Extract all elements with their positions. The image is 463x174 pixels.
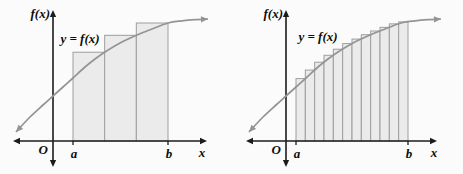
riemann-rectangle (333, 49, 342, 141)
y-axis-label: f(x) (264, 6, 284, 21)
x-axis-left-arrow (246, 138, 253, 144)
y-axis-bottom-arrow (50, 160, 56, 167)
riemann-rectangle (305, 70, 314, 141)
y-axis-label: f(x) (31, 6, 51, 21)
curve-equation-label: y = f(x) (58, 31, 99, 46)
panel-coarse-partition: f(x)y = f(x)Oabx (0, 0, 231, 174)
x-axis-label: x (430, 145, 438, 160)
x-axis-right-arrow (200, 138, 207, 144)
riemann-rectangle (296, 79, 305, 141)
riemann-rectangle (105, 35, 137, 141)
riemann-rectangle (361, 35, 370, 141)
a-label: a (294, 146, 301, 161)
b-label: b (166, 146, 173, 161)
y-axis-bottom-arrow (283, 160, 289, 167)
riemann-rectangle (73, 52, 105, 141)
curve-end-arrow (434, 16, 441, 22)
panel-fine-partition: f(x)y = f(x)Oabx (231, 0, 463, 174)
riemann-rectangle (315, 62, 324, 141)
riemann-rectangle (399, 22, 408, 141)
y-axis-top-arrow (50, 10, 56, 17)
riemann-rectangle (136, 23, 168, 141)
riemann-rectangle (389, 24, 398, 141)
riemann-rectangle (371, 31, 380, 141)
a-label: a (71, 146, 78, 161)
riemann-rectangle (380, 27, 389, 141)
riemann-rectangle (352, 39, 361, 141)
riemann-rectangle (324, 55, 333, 141)
y-axis-top-arrow (283, 10, 289, 17)
origin-label: O (272, 142, 282, 157)
x-axis-label: x (198, 145, 206, 160)
riemann-rectangle (343, 44, 352, 141)
curve-end-arrow (201, 16, 208, 22)
riemann-sum-figure: f(x)y = f(x)Oabx f(x)y = f(x)Oabx (0, 0, 463, 174)
x-axis-right-arrow (430, 138, 437, 144)
origin-label: O (39, 142, 49, 157)
x-axis-left-arrow (13, 138, 20, 144)
b-label: b (406, 146, 413, 161)
curve-equation-label: y = f(x) (296, 29, 337, 44)
